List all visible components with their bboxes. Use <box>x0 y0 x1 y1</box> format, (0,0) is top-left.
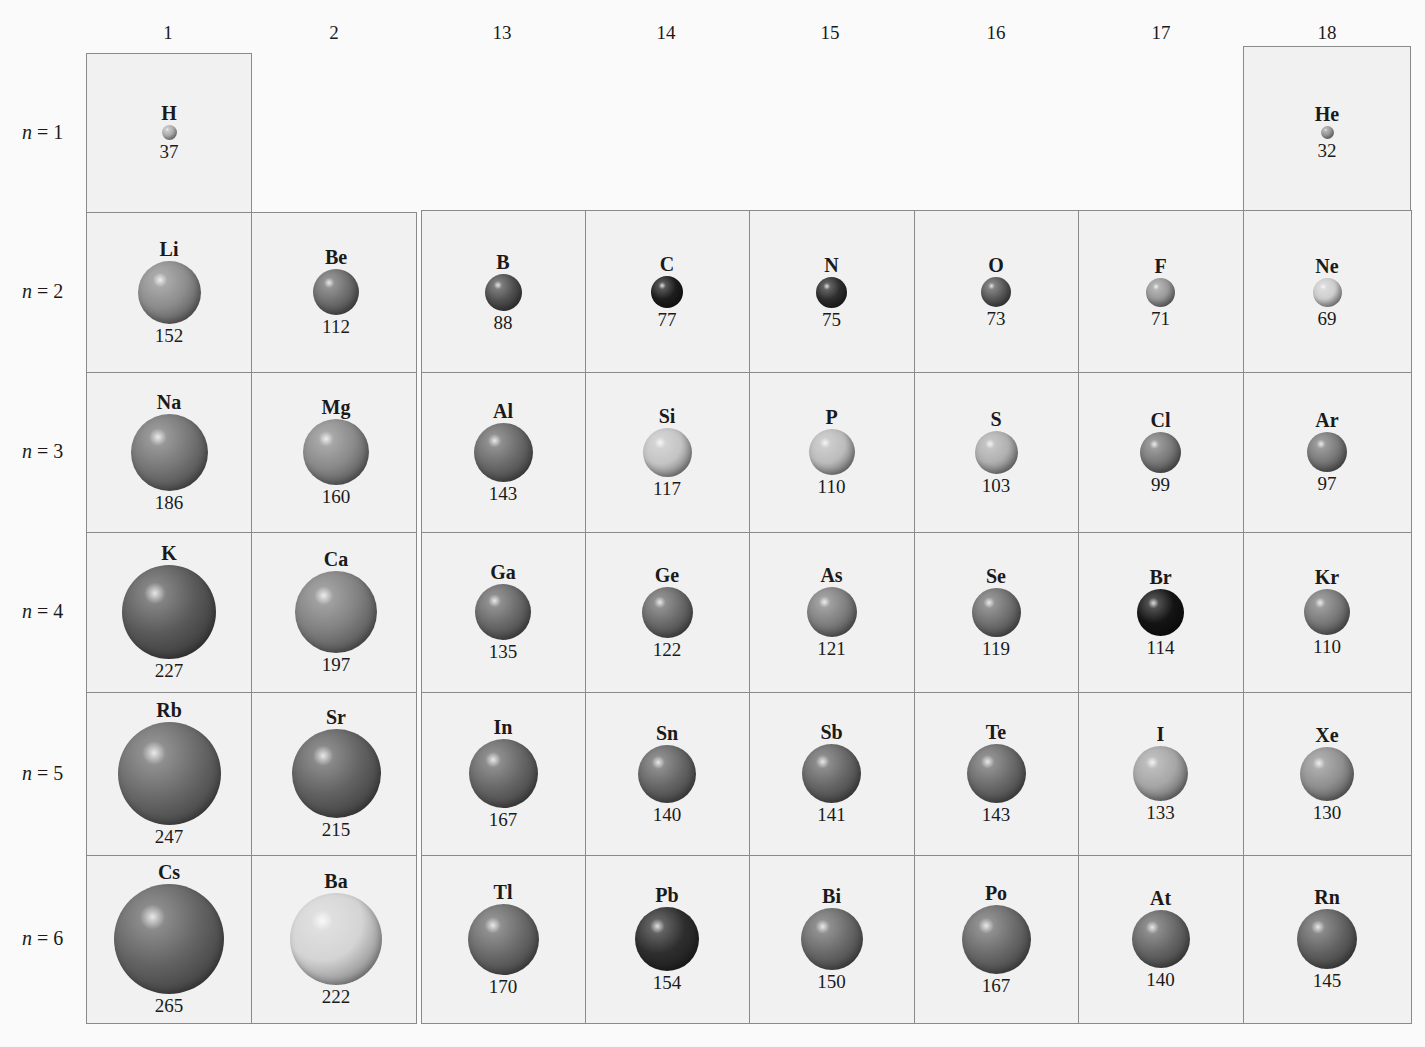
atom-sphere-icon <box>475 584 531 640</box>
period-label: n = 1 <box>22 121 82 144</box>
element-cell-te: Te143 <box>914 692 1078 855</box>
atomic-radius-value: 167 <box>489 809 518 831</box>
element-symbol: Ar <box>1315 409 1338 431</box>
atomic-radius-value: 117 <box>653 478 681 500</box>
element-symbol: Li <box>160 238 179 260</box>
element-cell-s: S103 <box>914 372 1078 532</box>
atomic-radius-value: 152 <box>155 325 184 347</box>
element-cell-kr: Kr110 <box>1243 532 1411 692</box>
element-cell-se: Se119 <box>914 532 1078 692</box>
element-symbol: Sb <box>820 721 842 743</box>
element-symbol: Al <box>493 400 513 422</box>
atomic-radius-value: 265 <box>155 995 184 1017</box>
element-symbol: K <box>161 542 177 564</box>
atomic-radius-value: 227 <box>155 660 184 682</box>
element-cell-k: K227 <box>87 532 251 692</box>
atom-sphere-icon <box>1313 278 1342 307</box>
element-symbol: Si <box>659 405 676 427</box>
element-cell-rn: Rn145 <box>1243 855 1411 1023</box>
period-n: n <box>22 762 32 784</box>
element-cell-bi: Bi150 <box>749 855 914 1023</box>
atomic-radius-value: 32 <box>1318 140 1337 162</box>
atomic-radius-value: 154 <box>653 972 682 994</box>
element-cell-xe: Xe130 <box>1243 692 1411 855</box>
element-symbol: Kr <box>1315 566 1339 588</box>
element-symbol: At <box>1150 887 1171 909</box>
period-n: n <box>22 600 32 622</box>
atomic-radius-value: 133 <box>1146 802 1175 824</box>
element-cell-li: Li152 <box>87 212 251 372</box>
element-symbol: Be <box>325 246 347 268</box>
period-label: n = 2 <box>22 280 82 303</box>
atom-sphere-icon <box>801 908 863 970</box>
element-cell-cl: Cl99 <box>1078 372 1243 532</box>
element-cell-na: Na186 <box>87 372 251 532</box>
element-symbol: H <box>161 102 177 124</box>
element-cell-as: As121 <box>749 532 914 692</box>
atomic-radius-value: 215 <box>322 819 351 841</box>
element-symbol: P <box>825 406 837 428</box>
atomic-radius-value: 160 <box>322 486 351 508</box>
element-symbol: As <box>820 564 842 586</box>
atom-sphere-icon <box>313 269 359 315</box>
period-number: = 5 <box>32 762 63 784</box>
element-symbol: He <box>1315 103 1339 125</box>
atom-sphere-icon <box>1140 432 1181 473</box>
element-symbol: C <box>660 253 674 275</box>
atomic-radius-value: 71 <box>1151 308 1170 330</box>
atom-sphere-icon <box>635 907 699 971</box>
atom-sphere-icon <box>802 744 861 803</box>
element-symbol: Te <box>986 721 1006 743</box>
period-n: n <box>22 440 32 462</box>
atom-sphere-icon <box>642 587 693 638</box>
atom-sphere-icon <box>1132 910 1190 968</box>
atomic-radius-value: 121 <box>817 638 846 660</box>
atomic-radius-value: 88 <box>494 312 513 334</box>
group-label: 1 <box>138 22 198 44</box>
atom-sphere-icon <box>809 429 855 475</box>
element-cell-be: Be112 <box>251 212 421 372</box>
element-cell-al: Al143 <box>421 372 585 532</box>
period-label: n = 6 <box>22 927 82 950</box>
atom-sphere-icon <box>643 428 692 477</box>
atom-sphere-icon <box>303 419 369 485</box>
atomic-radius-value: 150 <box>817 971 846 993</box>
atom-sphere-icon <box>114 884 224 994</box>
element-cell-ba: Ba222 <box>251 855 421 1023</box>
period-n: n <box>22 121 32 143</box>
group-label: 14 <box>636 22 696 44</box>
element-symbol: Ne <box>1315 255 1338 277</box>
atomic-radius-value: 103 <box>982 475 1011 497</box>
atomic-radius-value: 145 <box>1313 970 1342 992</box>
period-n: n <box>22 927 32 949</box>
atom-sphere-icon <box>1321 126 1334 139</box>
element-cell-sn: Sn140 <box>585 692 749 855</box>
atom-sphere-icon <box>290 893 382 985</box>
element-symbol: Rb <box>156 699 182 721</box>
element-symbol: Po <box>985 882 1007 904</box>
group-label: 13 <box>472 22 532 44</box>
atom-sphere-icon <box>981 277 1011 307</box>
atom-sphere-icon <box>474 423 533 482</box>
element-symbol: Ga <box>490 561 516 583</box>
period-number: = 4 <box>32 600 63 622</box>
element-symbol: Tl <box>494 881 513 903</box>
atom-sphere-icon <box>638 745 696 803</box>
element-cell-rb: Rb247 <box>87 692 251 855</box>
element-symbol: Bi <box>822 885 841 907</box>
element-cell-n: N75 <box>749 212 914 372</box>
atomic-radius-value: 110 <box>818 476 846 498</box>
atom-sphere-icon <box>485 274 522 311</box>
element-symbol: I <box>1157 723 1165 745</box>
element-symbol: S <box>990 408 1001 430</box>
atom-sphere-icon <box>468 904 539 975</box>
element-symbol: Ba <box>324 870 347 892</box>
atom-sphere-icon <box>122 565 216 659</box>
element-cell-i: I133 <box>1078 692 1243 855</box>
element-symbol: Cl <box>1151 409 1171 431</box>
period-number: = 3 <box>32 440 63 462</box>
element-cell-cs: Cs265 <box>87 855 251 1023</box>
element-cell-c: C77 <box>585 212 749 372</box>
atom-sphere-icon <box>1146 278 1175 307</box>
atom-sphere-icon <box>138 261 201 324</box>
